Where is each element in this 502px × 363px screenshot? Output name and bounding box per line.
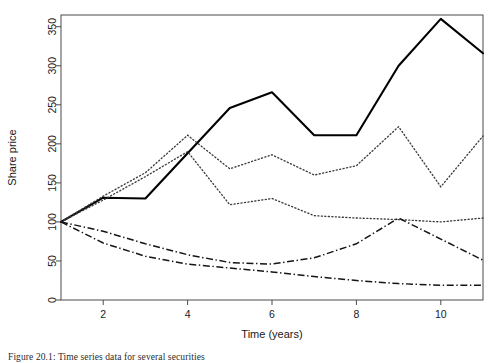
data-series-series-1: [61, 19, 483, 222]
y-axis-tick-label: 250: [46, 96, 58, 114]
y-axis-tick-label: 300: [46, 57, 58, 75]
y-axis-tick-label: 100: [46, 213, 58, 231]
data-series-series-2: [61, 127, 483, 222]
x-axis-tick-label: 4: [185, 308, 191, 320]
x-axis-tick-label: 2: [100, 308, 106, 320]
y-axis-tick-label: 0: [46, 297, 58, 303]
data-series-series-4: [61, 218, 483, 264]
y-axis-tick-label: 150: [46, 174, 58, 192]
x-axis-title: Time (years): [241, 328, 302, 340]
x-axis-tick-label: 6: [269, 308, 275, 320]
y-axis-tick-label: 50: [46, 255, 58, 267]
data-series-series-3: [61, 152, 483, 222]
figure-container: 050100150200250300350246810Time (years)S…: [0, 0, 502, 363]
data-series-series-5: [61, 222, 483, 285]
x-axis-tick-label: 10: [435, 308, 447, 320]
y-axis-tick-label: 350: [46, 18, 58, 36]
x-axis-tick-label: 8: [353, 308, 359, 320]
y-axis-tick-label: 200: [46, 135, 58, 153]
share-price-line-chart: 050100150200250300350246810Time (years)S…: [0, 0, 502, 363]
figure-caption: Figure 20.1: Time series data for severa…: [8, 352, 205, 363]
y-axis-title: Share price: [6, 129, 18, 185]
